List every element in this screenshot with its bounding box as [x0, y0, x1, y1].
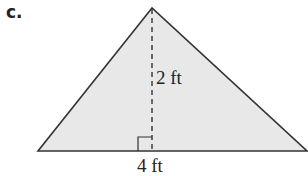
triangle-figure: 2 ft 4 ft: [0, 0, 308, 176]
base-label: 4 ft: [137, 155, 164, 176]
height-label: 2 ft: [156, 67, 183, 88]
